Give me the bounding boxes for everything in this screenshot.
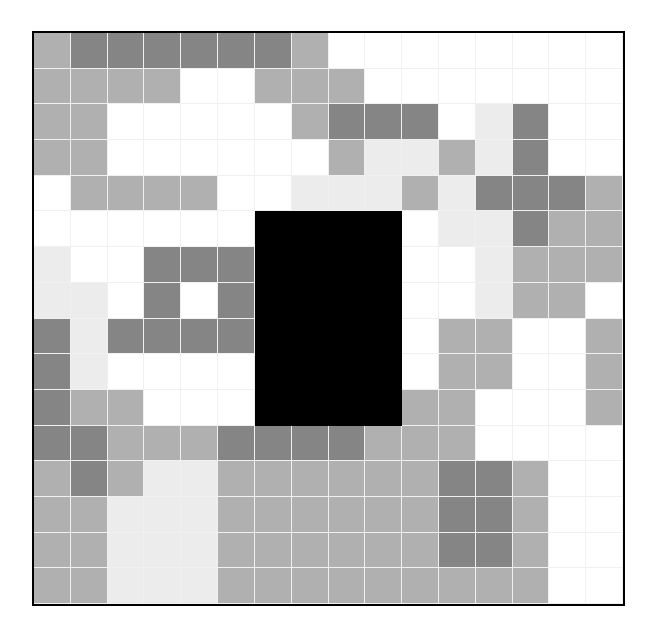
- heatmap-cell: [181, 211, 218, 247]
- heatmap-cell: [476, 461, 513, 497]
- heatmap-cell: [108, 104, 145, 140]
- heatmap-cell: [71, 211, 108, 247]
- heatmap-cell: [402, 426, 439, 462]
- heatmap-cell: [513, 497, 550, 533]
- heatmap-cell: [218, 533, 255, 569]
- heatmap-cell: [329, 69, 366, 105]
- heatmap-cell: [108, 283, 145, 319]
- heatmap-cell: [329, 426, 366, 462]
- heatmap-cell: [402, 211, 439, 247]
- heatmap-cell: [108, 211, 145, 247]
- heatmap-cell: [34, 140, 71, 176]
- heatmap-cell: [218, 283, 255, 319]
- heatmap-cell: [586, 176, 623, 212]
- heatmap-cell: [255, 283, 292, 319]
- heatmap-cell: [365, 568, 402, 604]
- heatmap-cell: [144, 461, 181, 497]
- heatmap-cell: [218, 69, 255, 105]
- heatmap-cell: [292, 176, 329, 212]
- heatmap-cell: [476, 390, 513, 426]
- heatmap-cell: [34, 354, 71, 390]
- heatmap-cell: [439, 283, 476, 319]
- heatmap-cell: [181, 247, 218, 283]
- heatmap-cell: [34, 319, 71, 355]
- heatmap-cell: [439, 497, 476, 533]
- heatmap-cell: [365, 426, 402, 462]
- heatmap-cell: [513, 461, 550, 497]
- heatmap-cell: [402, 461, 439, 497]
- heatmap-cell: [292, 140, 329, 176]
- heatmap-cell: [439, 247, 476, 283]
- heatmap-cell: [108, 140, 145, 176]
- heatmap-cell: [513, 533, 550, 569]
- heatmap-cell: [329, 568, 366, 604]
- heatmap-cell: [476, 247, 513, 283]
- heatmap-cell: [255, 247, 292, 283]
- heatmap-cell: [108, 69, 145, 105]
- heatmap-cell: [439, 390, 476, 426]
- heatmap-cell: [218, 390, 255, 426]
- heatmap-cell: [71, 426, 108, 462]
- heatmap-cell: [71, 104, 108, 140]
- heatmap-cell: [71, 69, 108, 105]
- heatmap-cell: [365, 104, 402, 140]
- heatmap-cell: [292, 354, 329, 390]
- heatmap-cell: [218, 176, 255, 212]
- heatmap-cell: [329, 247, 366, 283]
- heatmap-cell: [34, 104, 71, 140]
- heatmap-cell: [34, 390, 71, 426]
- heatmap-cell: [476, 176, 513, 212]
- heatmap-cell: [329, 283, 366, 319]
- heatmap-cell: [255, 69, 292, 105]
- heatmap-cell: [292, 497, 329, 533]
- heatmap-cell: [549, 354, 586, 390]
- heatmap-cell: [549, 426, 586, 462]
- heatmap-cell: [71, 497, 108, 533]
- heatmap-cell: [255, 497, 292, 533]
- heatmap-cell: [292, 319, 329, 355]
- heatmap-cell: [108, 390, 145, 426]
- heatmap-cell: [292, 33, 329, 69]
- heatmap-cell: [255, 211, 292, 247]
- heatmap-cell: [513, 354, 550, 390]
- heatmap-cell: [292, 461, 329, 497]
- heatmap-cell: [513, 247, 550, 283]
- heatmap-cell: [402, 140, 439, 176]
- heatmap-cell: [549, 568, 586, 604]
- heatmap-cell: [181, 33, 218, 69]
- heatmap-cell: [402, 283, 439, 319]
- heatmap-cell: [329, 497, 366, 533]
- heatmap-cell: [476, 533, 513, 569]
- heatmap-cell: [144, 104, 181, 140]
- heatmap-cell: [365, 176, 402, 212]
- heatmap-cell: [439, 426, 476, 462]
- heatmap-cell: [144, 69, 181, 105]
- heatmap-cell: [402, 497, 439, 533]
- heatmap-cell: [71, 247, 108, 283]
- heatmap-cell: [108, 461, 145, 497]
- heatmap-cell: [476, 568, 513, 604]
- heatmap-cell: [439, 140, 476, 176]
- heatmap-cell: [586, 426, 623, 462]
- heatmap-plot-area[interactable]: [32, 31, 625, 606]
- heatmap-cell: [292, 104, 329, 140]
- heatmap-cell: [144, 497, 181, 533]
- heatmap-cell: [144, 533, 181, 569]
- heatmap-cell: [255, 140, 292, 176]
- heatmap-cell: [181, 390, 218, 426]
- heatmap-cell: [586, 247, 623, 283]
- heatmap-cell: [365, 319, 402, 355]
- heatmap-cell: [255, 426, 292, 462]
- heatmap-cell: [255, 104, 292, 140]
- heatmap-cell: [255, 33, 292, 69]
- heatmap-grid: [34, 33, 623, 604]
- heatmap-cell: [255, 461, 292, 497]
- heatmap-cell: [513, 33, 550, 69]
- heatmap-cell: [292, 69, 329, 105]
- heatmap-cell: [255, 390, 292, 426]
- heatmap-cell: [255, 176, 292, 212]
- heatmap-cell: [402, 533, 439, 569]
- heatmap-cell: [34, 33, 71, 69]
- heatmap-cell: [513, 319, 550, 355]
- heatmap-cell: [365, 354, 402, 390]
